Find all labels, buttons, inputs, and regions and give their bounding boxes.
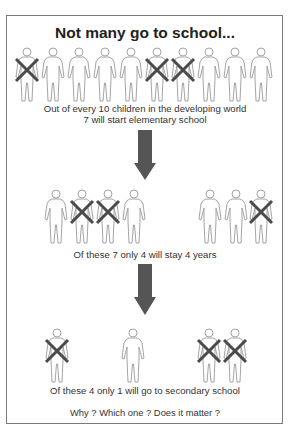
child-figure-crossed-icon — [95, 189, 121, 249]
diagram-title: Not many go to school... — [0, 24, 290, 42]
child-figure-icon — [197, 189, 223, 249]
child-figure-icon — [120, 328, 146, 388]
child-figure-crossed-icon — [144, 47, 170, 107]
stage-1-caption-line-2: 7 will start elementary school — [0, 114, 290, 125]
down-arrow-icon — [133, 130, 157, 181]
child-figure-icon — [223, 189, 249, 249]
child-figure-crossed-icon — [248, 189, 274, 249]
child-figure-crossed-icon — [69, 189, 95, 249]
stage-3-caption: Of these 4 only 1 will go to secondary s… — [0, 385, 290, 396]
stage-2-caption: Of these 7 only 4 will stay 4 years — [0, 249, 290, 260]
child-figure-icon — [66, 47, 92, 107]
child-figure-crossed-icon — [170, 47, 196, 107]
stage-1-caption-line-1: Out of every 10 children in the developi… — [0, 103, 290, 114]
child-figure-icon — [43, 189, 69, 249]
closing-question: Why ? Which one ? Does it matter ? — [0, 407, 290, 418]
child-figure-crossed-icon — [14, 47, 40, 107]
down-arrow-icon — [133, 264, 157, 316]
child-figure-icon — [121, 189, 147, 249]
child-figure-icon — [248, 47, 274, 107]
child-figure-icon — [40, 47, 66, 107]
child-figure-icon — [222, 47, 248, 107]
child-figure-crossed-icon — [222, 328, 248, 388]
child-figure-icon — [196, 47, 222, 107]
child-figure-crossed-icon — [196, 328, 222, 388]
child-figure-icon — [118, 47, 144, 107]
child-figure-icon — [92, 47, 118, 107]
child-figure-crossed-icon — [44, 328, 70, 388]
